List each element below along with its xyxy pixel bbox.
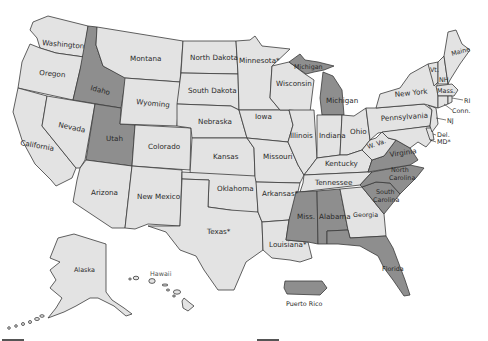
label-tennessee: Tennessee bbox=[314, 178, 353, 187]
us-map: Washington Oregon California Idaho Nevad… bbox=[0, 0, 488, 341]
label-connecticut: Conn. bbox=[452, 107, 471, 115]
label-louisiana: Louisiana* bbox=[269, 240, 307, 249]
state-florida[interactable] bbox=[327, 230, 410, 296]
state-puerto-rico[interactable] bbox=[284, 281, 327, 295]
label-arkansas: Arkansas* bbox=[262, 189, 299, 198]
label-georgia: Georgia bbox=[353, 211, 378, 219]
label-new-mexico: New Mexico bbox=[137, 192, 180, 201]
label-north-dakota: North Dakota bbox=[190, 53, 238, 62]
label-new-jersey: NJ bbox=[447, 117, 454, 125]
label-south-carolina-2: Carolina bbox=[373, 196, 399, 204]
label-nebraska: Nebraska bbox=[198, 117, 232, 126]
label-maryland: MD* bbox=[437, 138, 451, 146]
label-michigan-upper: Michigan bbox=[294, 63, 323, 71]
label-south-dakota: South Dakota bbox=[188, 86, 237, 95]
label-massachusetts: Mass. bbox=[437, 87, 455, 95]
label-arizona: Arizona bbox=[91, 188, 118, 197]
state-hawaii[interactable] bbox=[129, 276, 194, 311]
state-rhode-island[interactable] bbox=[448, 96, 452, 104]
label-mississippi: Miss. bbox=[297, 212, 315, 221]
label-indiana: Indiana bbox=[319, 131, 346, 140]
label-illinois: Illinois bbox=[290, 131, 313, 140]
state-new-york[interactable] bbox=[376, 64, 438, 108]
label-north-carolina-2: Carolina bbox=[389, 174, 415, 182]
label-minnesota: Minnesota* bbox=[239, 56, 280, 65]
label-ohio: Ohio bbox=[350, 127, 367, 136]
state-alaska[interactable] bbox=[48, 234, 132, 318]
label-texas: Texas* bbox=[206, 227, 231, 236]
label-vermont: Vt. bbox=[430, 66, 439, 74]
aleutian-islands bbox=[8, 315, 45, 330]
label-michigan-lower: Michigan bbox=[326, 96, 358, 105]
label-montana: Montana bbox=[130, 54, 161, 63]
label-new-hampshire: NH bbox=[439, 76, 449, 84]
label-alabama: Alabama bbox=[319, 212, 351, 221]
state-michigan-lower[interactable] bbox=[320, 72, 344, 115]
label-alaska: Alaska bbox=[74, 266, 95, 274]
label-puerto-rico: Puerto Rico bbox=[286, 300, 323, 308]
label-kansas: Kansas bbox=[213, 152, 239, 161]
label-kentucky: Kentucky bbox=[325, 159, 359, 168]
label-iowa: Iowa bbox=[255, 112, 272, 121]
label-florida: Florida bbox=[382, 265, 404, 273]
label-hawaii: Hawaii bbox=[150, 270, 172, 278]
label-north-carolina-1: North bbox=[391, 166, 409, 174]
label-south-carolina-1: South bbox=[376, 188, 395, 196]
label-missouri: Missouri bbox=[263, 152, 293, 161]
label-oklahoma: Oklahoma bbox=[217, 184, 254, 193]
label-utah: Utah bbox=[106, 134, 123, 143]
label-wisconsin: Wisconsin bbox=[276, 79, 312, 88]
label-rhode-island: RI bbox=[464, 97, 470, 105]
label-colorado: Colorado bbox=[148, 142, 180, 151]
